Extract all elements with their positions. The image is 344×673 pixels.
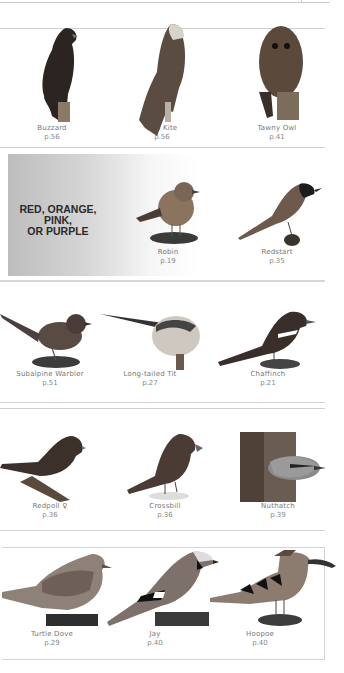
bird-name: Long-tailed Tit (100, 370, 200, 379)
redstart-image (232, 180, 322, 248)
bird-card-redstart[interactable]: Redstart p.35 (227, 180, 327, 266)
section-title: RED, ORANGE, PINK, OR PURPLE (12, 204, 104, 237)
bird-card-robin[interactable]: Robin p.19 (118, 180, 218, 266)
turtle-dove-image (2, 550, 112, 630)
bird-card-chaffinch[interactable]: Chaffinch p.21 (218, 306, 318, 388)
bird-name: Crossbill (115, 502, 215, 511)
page-ref[interactable]: p.39 (228, 511, 328, 520)
bird-card-long-tailed-tit[interactable]: Long-tailed Tit p.27 (100, 306, 200, 388)
page-ref[interactable]: p.29 (2, 639, 102, 648)
page-ref[interactable]: p.27 (100, 379, 200, 388)
bird-name: Turtle Dove (2, 630, 102, 639)
page-ref[interactable]: p.36 (115, 511, 215, 520)
page-ref[interactable]: p.35 (227, 257, 327, 266)
chaffinch-image (218, 306, 318, 370)
bird-name: Robin (118, 248, 218, 257)
bird-name: Jay (105, 630, 205, 639)
bird-card-tawny-owl[interactable]: Tawny Owl p.41 (227, 22, 327, 142)
subalpine-warbler-image (0, 306, 96, 370)
divider (0, 147, 325, 148)
page-top-notch (301, 0, 302, 3)
page-ref[interactable]: p.51 (0, 379, 100, 388)
bird-card-turtle-dove[interactable]: Turtle Dove p.29 (2, 550, 102, 648)
crossbill-image (125, 432, 205, 502)
tawny-owl-image (247, 22, 307, 124)
page-top-rule (0, 2, 330, 3)
divider (0, 280, 325, 282)
page-ref[interactable]: p.40 (105, 639, 205, 648)
divider (0, 530, 325, 531)
nuthatch-image (230, 432, 326, 502)
bird-card-nuthatch[interactable]: Nuthatch p.39 (228, 432, 328, 520)
bird-name: Redpoll ♀ (0, 502, 100, 511)
page-ref[interactable]: p.40 (210, 639, 310, 648)
bird-name: Subalpine Warbler (0, 370, 100, 379)
bird-card-redpoll-female[interactable]: Redpoll ♀ p.36 (0, 432, 100, 520)
bird-name: Buzzard (2, 124, 102, 133)
bird-card-subalpine-warbler[interactable]: Subalpine Warbler p.51 (0, 306, 100, 388)
red-kite-image (127, 24, 197, 124)
bird-name: Tawny Owl (227, 124, 327, 133)
page-ref[interactable]: p.41 (227, 133, 327, 142)
bird-card-red-kite[interactable]: Red Kite p.56 (112, 24, 212, 142)
bird-name: Hoopoe (210, 630, 310, 639)
hoopoe-image (210, 550, 336, 630)
page-ref[interactable]: p.19 (118, 257, 218, 266)
long-tailed-tit-image (100, 306, 214, 370)
bird-card-hoopoe[interactable]: Hoopoe p.40 (210, 550, 310, 648)
page-ref[interactable]: p.36 (0, 511, 100, 520)
bird-card-jay[interactable]: Jay p.40 (105, 550, 205, 648)
bird-name: Redstart (227, 248, 327, 257)
jay-image (105, 550, 219, 630)
page-ref[interactable]: p.56 (2, 133, 102, 142)
robin-image (128, 180, 208, 248)
page-ref[interactable]: p.21 (218, 379, 318, 388)
divider (0, 408, 325, 409)
divider (0, 402, 325, 403)
bird-name: Nuthatch (228, 502, 328, 511)
bird-card-crossbill[interactable]: Crossbill p.36 (115, 432, 215, 520)
redpoll-female-image (0, 432, 86, 502)
bird-card-buzzard[interactable]: Buzzard p.56 (2, 24, 102, 142)
buzzard-image (22, 24, 82, 124)
bird-name: Chaffinch (218, 370, 318, 379)
